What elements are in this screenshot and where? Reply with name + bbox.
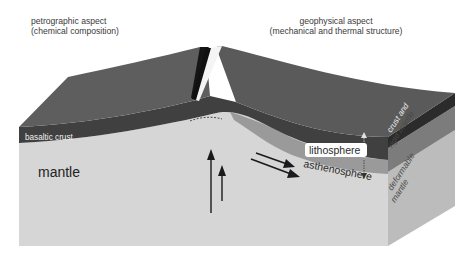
- petrographic-aspect-caption: petrographic aspect (chemical compositio…: [31, 17, 119, 36]
- geophysical-aspect-subtitle: (mechanical and thermal structure): [256, 27, 416, 37]
- basaltic-crust-label: basaltic crust: [25, 133, 74, 142]
- block-diagram: lithosphere asthenosphere basaltic crust…: [0, 0, 459, 255]
- geophysical-aspect-caption: geophysical aspect (mechanical and therm…: [256, 17, 416, 36]
- petrographic-aspect-subtitle: (chemical composition): [31, 27, 119, 37]
- mid-ocean-ridge-diagram: lithosphere asthenosphere basaltic crust…: [0, 0, 459, 255]
- mantle-label: mantle: [38, 164, 80, 180]
- lithosphere-label: lithosphere: [309, 144, 361, 156]
